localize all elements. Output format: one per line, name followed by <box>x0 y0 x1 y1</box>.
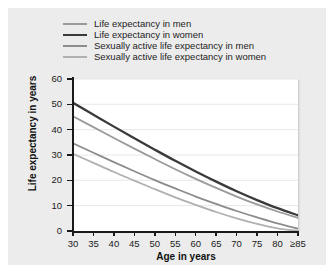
legend-label: Life expectancy in women <box>94 29 203 40</box>
x-axis-title: Age in years <box>73 251 299 262</box>
legend-item: Life expectancy in men <box>63 18 308 29</box>
y-axis-tick <box>67 129 73 130</box>
figure-panel: Life expectancy in men Life expectancy i… <box>8 8 326 265</box>
y-axis-tick-label: 60 <box>42 73 62 84</box>
legend-item: Life expectancy in women <box>63 29 308 40</box>
legend-item: Sexually active life expectancy in women <box>63 51 308 62</box>
legend-label: Sexually active life expectancy in women <box>94 51 266 62</box>
y-axis-tick <box>67 104 73 105</box>
x-axis-tick <box>195 231 196 236</box>
y-axis-tick-label: 50 <box>42 98 62 109</box>
legend-label: Life expectancy in men <box>94 18 191 29</box>
x-axis-tick <box>93 231 94 236</box>
x-axis-tick <box>72 231 73 236</box>
y-axis-tick <box>67 154 73 155</box>
plot-area <box>73 79 298 231</box>
legend-label: Sexually active life expectancy in men <box>94 40 254 51</box>
x-axis-tick <box>175 231 176 236</box>
x-axis-tick-label: ≥85 <box>283 238 313 249</box>
legend-item: Sexually active life expectancy in men <box>63 40 308 51</box>
y-axis-tick-label: 20 <box>42 174 62 185</box>
y-axis-tick-label: 30 <box>42 149 62 160</box>
y-axis-tick <box>67 180 73 181</box>
x-axis-tick <box>215 231 216 236</box>
y-axis-tick <box>67 78 73 79</box>
x-axis-line <box>72 231 299 233</box>
x-axis-tick <box>236 231 237 236</box>
chart-legend: Life expectancy in men Life expectancy i… <box>63 18 308 62</box>
x-axis-tick <box>277 231 278 236</box>
y-axis-tick <box>67 205 73 206</box>
y-axis-tick-label: 40 <box>42 124 62 135</box>
x-axis-tick <box>134 231 135 236</box>
y-axis-ticks: 0102030405060 <box>8 8 73 265</box>
series-lines <box>73 79 298 231</box>
y-axis-tick-label: 10 <box>42 200 62 211</box>
x-axis-tick <box>113 231 114 236</box>
y-axis-tick-label: 0 <box>42 225 62 236</box>
x-axis-tick <box>256 231 257 236</box>
x-axis-tick <box>154 231 155 236</box>
x-axis-tick <box>297 231 298 236</box>
y-axis-title: Life expectancy in years <box>27 64 38 204</box>
